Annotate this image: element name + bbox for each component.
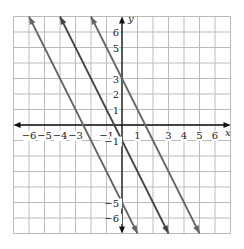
svg-text:−4: −4 [53,130,68,141]
svg-text:−5: −5 [37,130,52,141]
y-axis-label: y [127,13,134,24]
svg-text:−6: −6 [104,213,119,224]
svg-text:3: 3 [165,130,171,141]
svg-text:6: 6 [113,27,119,38]
svg-text:1: 1 [113,105,119,116]
svg-text:−5: −5 [104,198,119,209]
coordinate-plane: −6−5−4−3−11345665321−1−5−6 x y [0,0,244,249]
x-axis-label: x [225,127,231,138]
svg-text:5: 5 [113,43,119,54]
svg-text:4: 4 [181,130,187,141]
svg-text:5: 5 [196,130,202,141]
svg-text:1: 1 [134,130,140,141]
svg-text:−3: −3 [68,130,83,141]
svg-text:2: 2 [113,89,119,100]
svg-text:3: 3 [113,74,119,85]
svg-text:−6: −6 [22,130,37,141]
svg-text:−1: −1 [104,136,119,147]
svg-text:6: 6 [212,130,218,141]
